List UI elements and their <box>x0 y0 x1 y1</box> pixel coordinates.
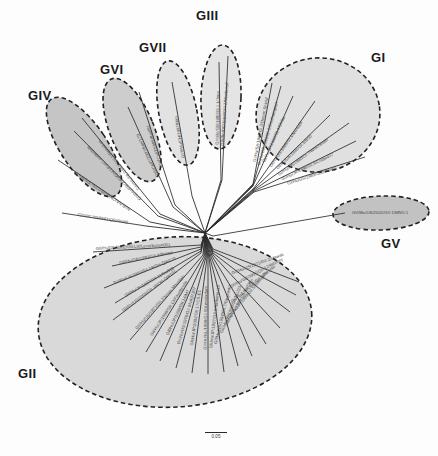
cluster-ellipse-layer <box>32 44 429 416</box>
scale-bar-line <box>205 432 227 433</box>
phylogenetic-tree-figure: GI/Hu/SA/1986/GI.3/Desert ShieldGI/Hu/GB… <box>0 0 438 456</box>
tip-label: GV/Mu/US/2002/GV.1/MNV-1 <box>352 210 409 215</box>
tip-label: GI/Hu/SO/1999/GII.10/U22 <box>76 212 128 225</box>
scale-bar-label: 0.05 <box>205 434 227 439</box>
group-label-giv: GIV <box>28 88 52 103</box>
scale-bar: 0.05 <box>205 432 227 439</box>
group-label-gvi: GVI <box>100 62 124 77</box>
group-label-gi: GI <box>371 50 386 65</box>
group-label-gii: GII <box>18 366 37 381</box>
terminal-branch <box>213 213 345 236</box>
group-label-giii: GIII <box>196 8 219 23</box>
group-label-gvii: GVII <box>139 40 167 55</box>
tree-canvas: GI/Hu/SA/1986/GI.3/Desert ShieldGI/Hu/GB… <box>0 0 438 456</box>
internal-branch <box>205 192 254 233</box>
group-label-gv: GV <box>381 236 401 251</box>
